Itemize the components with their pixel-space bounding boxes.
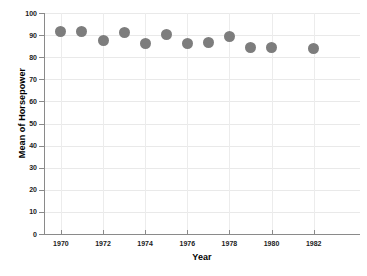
gridline-y-70 [44,79,360,80]
data-point [182,38,193,49]
data-point [308,43,319,54]
gridline-x-1970 [61,13,62,234]
gridline-x-1972 [103,13,104,234]
data-point [119,27,130,38]
data-point [140,38,151,49]
y-axis-title: Mean of Horsepower [17,43,27,183]
gridline-y-90 [44,35,360,36]
y-tick-label-100: 100 [13,10,37,17]
gridline-y-60 [44,101,360,102]
plot-area [44,13,360,234]
y-axis-line [44,13,45,235]
y-tick-10 [39,212,44,213]
gridline-x-1978 [229,13,230,234]
y-tick-40 [39,146,44,147]
x-tick-label-1978: 1978 [212,240,246,247]
data-point [266,42,277,53]
gridline-y-20 [44,190,360,191]
x-tick-label-1972: 1972 [86,240,120,247]
data-point [98,35,109,46]
gridline-y-80 [44,57,360,58]
gridline-y-10 [44,212,360,213]
data-point [203,37,214,48]
data-point [161,29,172,40]
scatter-chart: 0102030405060708090100 19701972197419761… [0,0,367,276]
gridline-y-40 [44,146,360,147]
x-tick-1982 [314,230,315,235]
y-tick-60 [39,101,44,102]
gridline-y-50 [44,124,360,125]
x-tick-1976 [187,230,188,235]
gridline-y-30 [44,168,360,169]
y-tick-label-20: 20 [13,186,37,193]
data-point [245,42,256,53]
y-tick-90 [39,35,44,36]
x-tick-label-1970: 1970 [44,240,78,247]
y-tick-80 [39,57,44,58]
y-tick-label-10: 10 [13,208,37,215]
y-tick-100 [39,13,44,14]
x-tick-label-1974: 1974 [128,240,162,247]
x-axis-title: Year [44,252,360,262]
y-tick-50 [39,124,44,125]
x-tick-1980 [272,230,273,235]
x-tick-1978 [229,230,230,235]
y-tick-label-90: 90 [13,32,37,39]
x-tick-1972 [103,230,104,235]
y-tick-20 [39,190,44,191]
y-tick-30 [39,168,44,169]
x-tick-label-1982: 1982 [297,240,331,247]
x-tick-label-1980: 1980 [255,240,289,247]
x-tick-1970 [61,230,62,235]
y-tick-70 [39,79,44,80]
gridline-y-100 [44,13,360,14]
x-tick-label-1976: 1976 [170,240,204,247]
y-tick-label-0: 0 [13,231,37,238]
x-tick-1974 [145,230,146,235]
data-point [224,31,235,42]
x-axis-line [44,234,360,235]
y-tick-0 [39,234,44,235]
